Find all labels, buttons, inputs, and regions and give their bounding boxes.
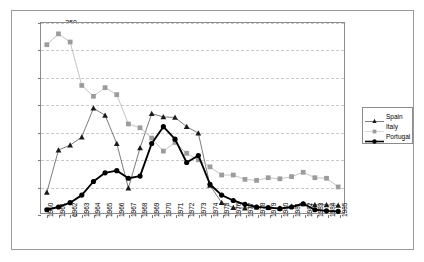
x-axis-tick-label: 1967	[131, 203, 138, 217]
data-point-marker	[103, 85, 108, 90]
series-lines	[41, 23, 344, 213]
data-point-marker	[126, 122, 131, 127]
x-axis-tick-label: 1984	[330, 203, 337, 217]
legend-item-italy: Italy	[365, 121, 410, 131]
data-point-marker	[91, 94, 96, 99]
data-point-marker	[114, 168, 119, 173]
data-point-marker	[56, 31, 61, 36]
data-point-marker	[137, 145, 143, 150]
data-point-marker	[208, 164, 213, 169]
x-axis-tick-label: 1964	[95, 203, 102, 217]
data-point-marker	[138, 125, 143, 130]
x-axis-tick-label: 1961	[60, 203, 67, 217]
data-point-marker	[184, 151, 189, 156]
data-point-marker	[231, 173, 236, 178]
legend-label-spain: Spain	[384, 113, 403, 120]
data-point-marker	[126, 185, 132, 190]
x-axis-tick-label: 1968	[142, 203, 149, 217]
legend-label-italy: Italy	[384, 123, 398, 130]
x-axis-tick-label: 1983	[318, 203, 325, 217]
legend-key-portugal	[365, 132, 384, 141]
data-point-marker	[196, 153, 201, 158]
x-axis-tick-label: 1980	[283, 203, 290, 217]
x-axis-tick-label: 1982	[307, 203, 314, 217]
data-point-marker	[149, 111, 155, 116]
data-point-marker	[126, 176, 131, 181]
data-point-marker	[91, 105, 97, 110]
data-point-marker	[301, 170, 306, 175]
data-point-marker	[219, 173, 224, 178]
data-point-marker	[161, 124, 166, 129]
data-point-marker	[79, 193, 84, 198]
x-axis-tick-label: 1970	[166, 203, 173, 217]
data-point-marker	[44, 190, 50, 195]
data-point-marker	[254, 178, 259, 183]
data-point-marker	[219, 193, 224, 198]
legend-item-portugal: Portugal	[365, 131, 410, 141]
x-axis-tick-label: 1962	[72, 203, 79, 217]
data-point-marker	[207, 182, 212, 187]
chart-legend: Spain Italy Portugal	[362, 107, 413, 144]
legend-label-portugal: Portugal	[384, 133, 410, 140]
plot-area	[40, 22, 345, 214]
data-point-marker	[172, 137, 177, 142]
data-point-marker	[324, 176, 329, 181]
data-point-marker	[278, 176, 283, 181]
data-point-marker	[56, 147, 62, 152]
data-point-marker	[102, 112, 108, 117]
data-point-marker	[79, 83, 84, 88]
x-axis-tick-label: 1963	[84, 203, 91, 217]
x-axis-tick-label: 1981	[295, 203, 302, 217]
data-point-marker	[149, 141, 154, 146]
x-axis-tick-label: 1974	[213, 203, 220, 217]
data-point-marker	[91, 179, 96, 184]
x-axis-tick-label: 1979	[271, 203, 278, 217]
x-axis-tick-label: 1976	[236, 203, 243, 217]
x-axis-tick-label: 1966	[119, 203, 126, 217]
data-point-marker	[79, 134, 85, 139]
data-point-marker	[266, 175, 271, 180]
x-axis-tick-label: 1985	[342, 203, 349, 217]
x-axis-tick-label: 1978	[260, 203, 267, 217]
data-point-marker	[289, 174, 294, 179]
legend-key-spain	[365, 112, 384, 121]
data-point-marker	[67, 142, 73, 147]
legend-item-spain: Spain	[365, 111, 410, 121]
legend-key-italy	[365, 122, 384, 131]
data-point-marker	[103, 170, 108, 175]
chart-figure: 050100150200250300350 196019611962196319…	[0, 0, 424, 262]
data-point-marker	[137, 174, 142, 179]
data-point-marker	[184, 160, 189, 165]
x-axis-tick-label: 1965	[107, 203, 114, 217]
x-axis-tick-label: 1977	[248, 203, 255, 217]
y-axis-tick	[38, 215, 41, 216]
data-point-marker	[68, 40, 73, 45]
data-point-marker	[195, 130, 201, 135]
x-axis-tick-label: 1971	[178, 203, 185, 217]
x-axis-tick-label: 1972	[189, 203, 196, 217]
x-axis-tick-label: 1960	[48, 203, 55, 217]
x-axis-tick-label: 1975	[224, 203, 231, 217]
x-axis-tick-label: 1973	[201, 203, 208, 217]
data-point-marker	[44, 42, 49, 47]
data-point-marker	[161, 149, 166, 154]
series-line	[47, 127, 338, 212]
data-point-marker	[243, 177, 248, 182]
data-point-marker	[312, 175, 317, 180]
data-point-marker	[336, 185, 341, 190]
series-portugal	[44, 124, 341, 214]
series-italy	[44, 31, 340, 189]
series-line	[47, 34, 338, 187]
x-axis-tick-label: 1969	[154, 203, 161, 217]
data-point-marker	[114, 92, 119, 97]
data-point-marker	[114, 141, 120, 146]
